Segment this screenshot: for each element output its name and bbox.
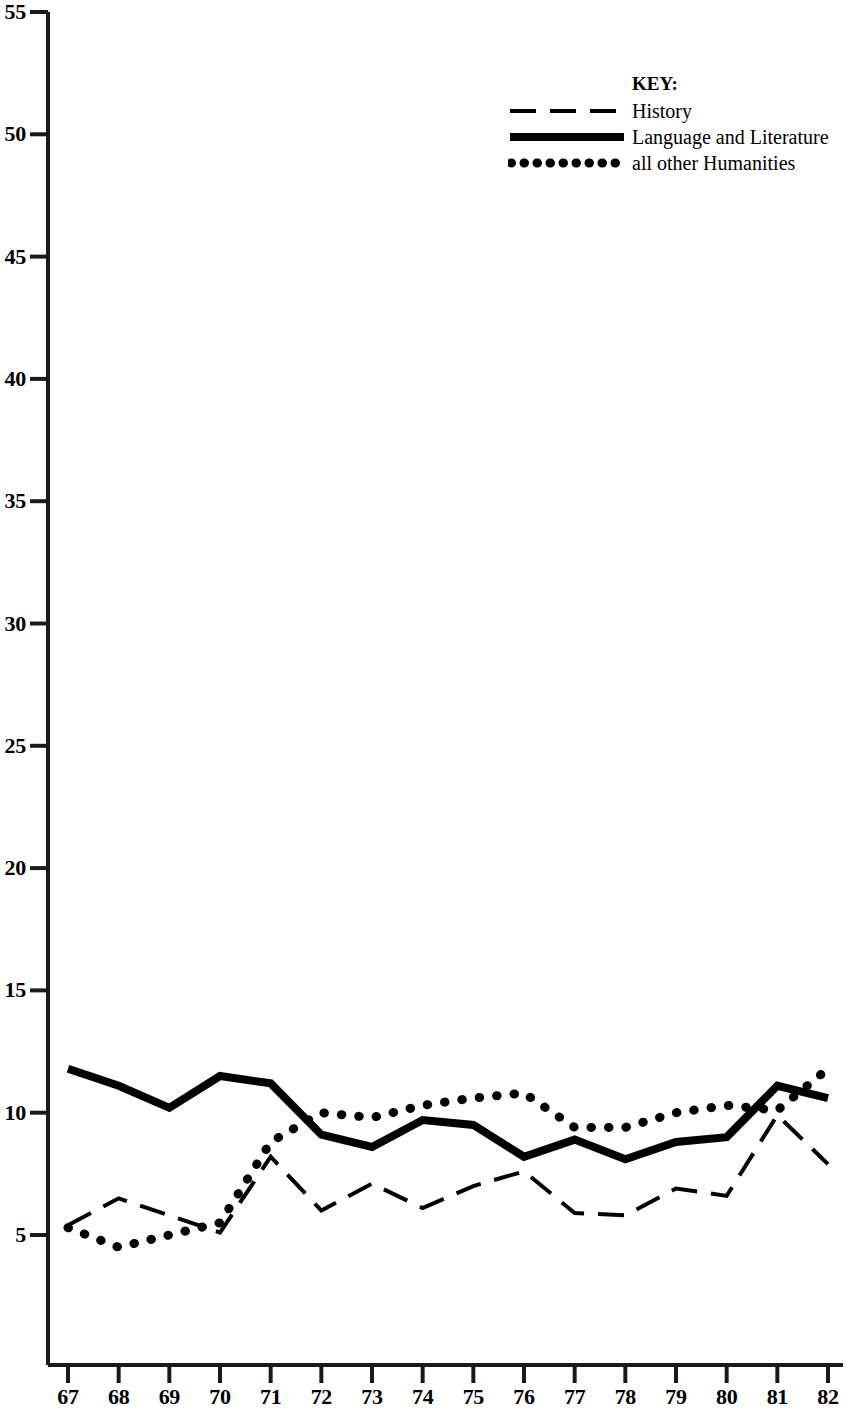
legend-swatch-solid-icon [508, 126, 626, 148]
x-tick-label: 74 [401, 1386, 445, 1408]
x-tick-label: 69 [147, 1386, 191, 1408]
x-tick-label: 71 [249, 1386, 293, 1408]
x-tick-label: 70 [198, 1386, 242, 1408]
x-tick-label: 78 [603, 1386, 647, 1408]
x-tick-marks [68, 1365, 828, 1383]
y-tick-label: 40 [0, 368, 26, 390]
legend-label-all-other-humanities: all other Humanities [632, 153, 795, 173]
legend-label-history: History [632, 101, 692, 121]
legend-swatch-dashed-icon [508, 100, 626, 122]
x-tick-label: 73 [350, 1386, 394, 1408]
series-line-history [68, 1115, 828, 1232]
y-tick-label: 35 [0, 490, 26, 512]
x-tick-label: 80 [705, 1386, 749, 1408]
legend-item-history: History [508, 100, 840, 126]
x-tick-label: 68 [97, 1386, 141, 1408]
legend-swatch-dotted-icon [508, 152, 626, 174]
y-tick-label: 20 [0, 857, 26, 879]
x-tick-label: 81 [755, 1386, 799, 1408]
legend-item-all-other-humanities: all other Humanities [508, 152, 840, 178]
y-tick-label: 10 [0, 1102, 26, 1124]
legend-label-language-and-literature: Language and Literature [632, 127, 829, 147]
legend-item-language-and-literature: Language and Literature [508, 126, 840, 152]
y-tick-label: 45 [0, 246, 26, 268]
y-tick-label: 55 [0, 1, 26, 23]
series-line-language-and-literature [68, 1069, 828, 1160]
y-tick-label: 5 [0, 1224, 26, 1246]
x-tick-label: 72 [299, 1386, 343, 1408]
y-tick-label: 50 [0, 123, 26, 145]
x-tick-label: 76 [502, 1386, 546, 1408]
x-tick-label: 67 [46, 1386, 90, 1408]
x-tick-label: 77 [553, 1386, 597, 1408]
y-tick-marks [30, 12, 48, 1235]
x-tick-label: 79 [654, 1386, 698, 1408]
data-series-layer [68, 1069, 828, 1248]
x-tick-label: 82 [806, 1386, 847, 1408]
y-tick-label: 25 [0, 735, 26, 757]
y-tick-label: 15 [0, 979, 26, 1001]
x-tick-label: 75 [451, 1386, 495, 1408]
y-tick-label: 30 [0, 613, 26, 635]
legend-title: KEY: [632, 74, 678, 93]
